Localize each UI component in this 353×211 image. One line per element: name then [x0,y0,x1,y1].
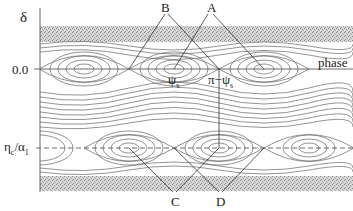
phase-space-diagram [0,0,353,211]
psi-s-label: ψs [168,73,179,90]
upper-noise-band [40,26,353,42]
callout-a: A [207,1,216,14]
callout-b: B [161,1,170,14]
upper-outer-contours [40,41,353,59]
callout-d: D [216,195,225,208]
pi-minus-psi-label: π−ψs [208,73,233,90]
zero-tick-label: 0.0 [12,63,28,76]
lower-noise-band [40,176,353,191]
middle-contours [40,82,353,129]
x-axis-label: phase [318,56,348,69]
y-axis-label: δ [20,10,27,25]
eta-tick-label: ηc/α1 [4,140,29,157]
lower-outer-contours [40,162,353,175]
callout-c: C [171,195,180,208]
